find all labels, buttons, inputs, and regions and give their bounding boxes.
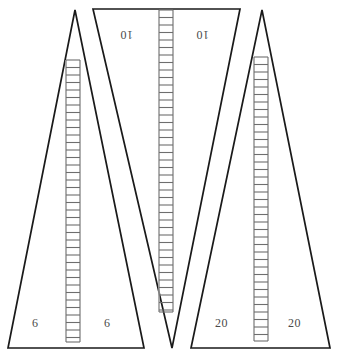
dimension-label-6-right: 6 [104,316,111,331]
triangle-group [8,9,330,348]
diagram-canvas: 1010662020 [0,0,342,358]
dimension-label-10-left: 10 [120,27,133,42]
dimension-label-20-left: 20 [215,316,228,331]
dimension-label-20-right: 20 [288,316,301,331]
dimension-label-10-right: 10 [196,27,209,42]
diagram-svg [0,0,342,358]
dimension-label-6-left: 6 [32,316,39,331]
